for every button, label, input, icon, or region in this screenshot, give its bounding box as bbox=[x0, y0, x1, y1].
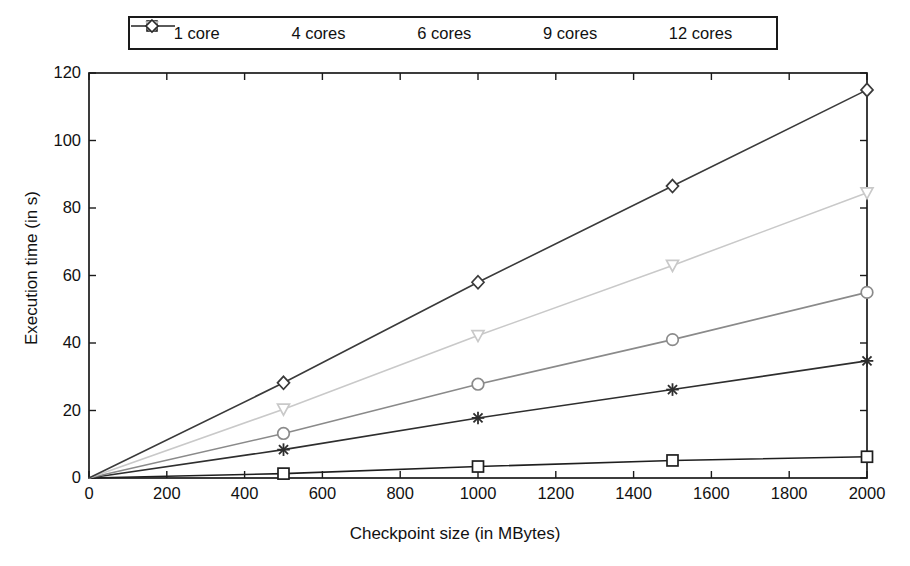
data-point-diamond bbox=[861, 83, 873, 96]
x-tick-label: 1400 bbox=[604, 484, 664, 503]
data-point-triangle bbox=[667, 260, 679, 271]
x-tick-label: 2000 bbox=[837, 484, 897, 503]
legend-label: 6 cores bbox=[417, 24, 471, 43]
series-6-cores bbox=[89, 287, 873, 478]
legend-item-4-cores: 4 cores bbox=[291, 24, 345, 43]
chart-plot-area bbox=[0, 0, 910, 566]
x-tick-label: 0 bbox=[59, 484, 119, 503]
x-tick-label: 1800 bbox=[759, 484, 819, 503]
legend-item-6-cores: 6 cores bbox=[417, 24, 471, 43]
data-point-triangle bbox=[278, 404, 290, 415]
data-point-star bbox=[472, 412, 485, 425]
series-1-core bbox=[89, 451, 873, 479]
data-point-triangle bbox=[472, 331, 484, 342]
y-tick-label: 20 bbox=[21, 401, 81, 420]
legend-label: 9 cores bbox=[543, 24, 597, 43]
data-point-star bbox=[861, 355, 874, 368]
data-point-diamond bbox=[472, 276, 484, 289]
data-point-square bbox=[278, 468, 289, 479]
chart-figure: 1 core 4 cores 6 cores bbox=[0, 0, 910, 566]
x-tick-label: 1000 bbox=[448, 484, 508, 503]
data-point-circle bbox=[278, 428, 290, 440]
y-tick-label: 40 bbox=[21, 333, 81, 352]
legend-label: 1 core bbox=[174, 24, 220, 43]
y-tick-label: 60 bbox=[21, 266, 81, 285]
data-point-circle bbox=[472, 378, 484, 390]
data-point-star bbox=[666, 383, 679, 396]
x-tick-label: 800 bbox=[370, 484, 430, 503]
x-tick-label: 200 bbox=[137, 484, 197, 503]
legend-marker-diamond-icon bbox=[130, 18, 176, 34]
x-axis-title: Checkpoint size (in MBytes) bbox=[0, 524, 910, 544]
data-point-square bbox=[667, 455, 678, 466]
data-point-triangle bbox=[861, 188, 873, 199]
legend-label: 12 cores bbox=[669, 24, 732, 43]
data-point-square bbox=[862, 451, 873, 462]
series-9-cores bbox=[89, 188, 873, 478]
y-tick-label: 100 bbox=[21, 131, 81, 150]
y-tick-label: 80 bbox=[21, 198, 81, 217]
x-tick-label: 1600 bbox=[681, 484, 741, 503]
data-point-square bbox=[473, 461, 484, 472]
data-point-diamond bbox=[667, 180, 679, 193]
legend-label: 4 cores bbox=[291, 24, 345, 43]
x-tick-label: 600 bbox=[292, 484, 352, 503]
data-point-circle bbox=[861, 287, 873, 299]
data-point-star bbox=[277, 443, 290, 456]
legend-item-9-cores: 9 cores bbox=[543, 24, 597, 43]
data-point-circle bbox=[667, 334, 679, 346]
y-tick-label: 120 bbox=[21, 63, 81, 82]
legend-item-1-core: 1 core bbox=[174, 24, 220, 43]
data-point-diamond bbox=[278, 376, 290, 389]
x-tick-label: 400 bbox=[215, 484, 275, 503]
chart-legend: 1 core 4 cores 6 cores bbox=[128, 16, 778, 50]
x-tick-label: 1200 bbox=[526, 484, 586, 503]
legend-item-12-cores: 12 cores bbox=[669, 24, 732, 43]
